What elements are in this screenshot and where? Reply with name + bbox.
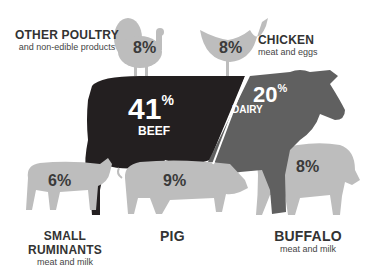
label-chicken-detail: meat and eggs [258, 47, 318, 57]
value-small-ruminants: 6% [48, 172, 71, 190]
value-buffalo: 8% [296, 158, 319, 176]
label-small-ruminants: SMALL RUMINANTS meat and milk [10, 229, 120, 267]
value-other-poultry: 8% [133, 39, 156, 57]
label-pig: PIG [160, 228, 185, 244]
label-buffalo: BUFFALO meat and milk [268, 228, 348, 254]
label-buffalo-title: BUFFALO [268, 228, 348, 244]
label-dairy: DAIRY [232, 104, 263, 115]
label-buffalo-detail: meat and milk [268, 244, 348, 254]
value-beef: 41% [128, 92, 174, 126]
value-chicken: 8% [219, 39, 242, 57]
label-other-poultry-title: OTHER POULTRY [14, 28, 120, 42]
label-pig-title: PIG [160, 228, 185, 244]
label-other-poultry: OTHER POULTRY and non-edible products [14, 28, 120, 52]
label-small-ruminants-detail: meat and milk [10, 257, 120, 267]
label-small-ruminants-title: SMALL RUMINANTS [10, 229, 120, 257]
label-chicken-title: CHICKEN [258, 33, 318, 47]
value-pig: 9% [163, 172, 186, 190]
label-beef: BEEF [138, 124, 170, 138]
label-chicken: CHICKEN meat and eggs [258, 33, 318, 57]
label-other-poultry-detail: and non-edible products [14, 42, 120, 52]
